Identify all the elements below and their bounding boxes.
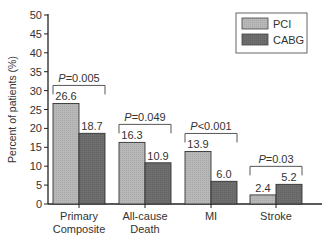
p-value-label: P=0.005 — [58, 72, 99, 84]
legend-label-pci: PCI — [273, 18, 291, 30]
value-label: 18.7 — [81, 120, 102, 132]
category-label: All-cause — [122, 210, 167, 222]
bar-pci — [119, 142, 145, 204]
chart-canvas: Percent of patients (%)05101520253035404… — [0, 0, 328, 239]
value-label: 13.9 — [187, 138, 208, 150]
category-label: MI — [205, 210, 217, 222]
legend-label-cabg: CABG — [273, 34, 304, 46]
legend-swatch-pci — [242, 18, 268, 29]
y-tick-label: 30 — [30, 85, 42, 97]
y-tick-label: 10 — [30, 160, 42, 172]
y-tick-label: 25 — [30, 104, 42, 116]
bar-cabg — [79, 133, 105, 204]
y-tick-label: 50 — [30, 9, 42, 21]
y-axis-label: Percent of patients (%) — [6, 56, 18, 163]
category-label: Primary — [60, 210, 98, 222]
p-value-label: P=0.03 — [258, 153, 293, 165]
legend-swatch-cabg — [242, 34, 268, 45]
category-label: Stroke — [260, 210, 292, 222]
y-tick-label: 15 — [30, 141, 42, 153]
category-label: Composite — [53, 223, 106, 235]
y-tick-label: 35 — [30, 66, 42, 78]
value-label: 16.3 — [121, 129, 142, 141]
y-tick-label: 20 — [30, 122, 42, 134]
category-label: Death — [130, 223, 159, 235]
bar-cabg — [145, 163, 171, 204]
bar-pci — [250, 195, 276, 204]
bar-pci — [185, 151, 211, 204]
y-tick-label: 0 — [36, 198, 42, 210]
y-tick-label: 5 — [36, 179, 42, 191]
value-label: 5.2 — [281, 171, 296, 183]
bar-cabg — [276, 184, 302, 204]
p-value-label: P=0.049 — [124, 111, 165, 123]
value-label: 10.9 — [147, 150, 168, 162]
value-label: 6.0 — [216, 168, 231, 180]
bar-chart: Percent of patients (%)05101520253035404… — [0, 0, 328, 239]
bar-pci — [53, 103, 79, 204]
p-value-label: P<0.001 — [190, 120, 231, 132]
y-tick-label: 40 — [30, 47, 42, 59]
value-label: 2.4 — [255, 182, 270, 194]
y-tick-label: 45 — [30, 28, 42, 40]
value-label: 26.6 — [55, 90, 76, 102]
bar-cabg — [211, 181, 237, 204]
